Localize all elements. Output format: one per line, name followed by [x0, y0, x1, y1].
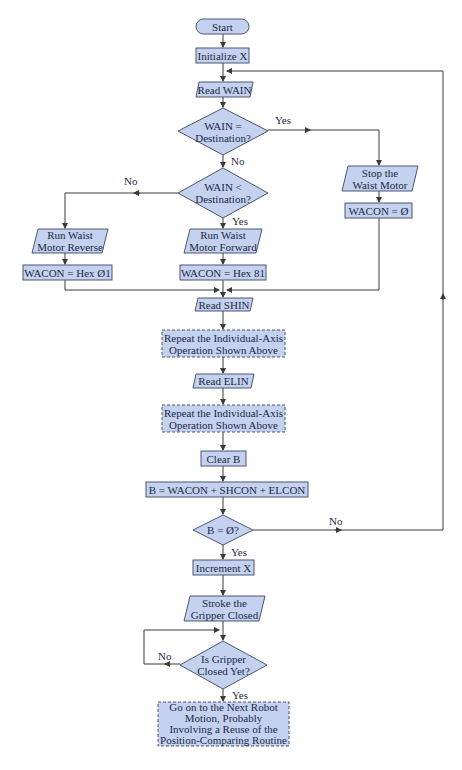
start-label: Start [196, 19, 249, 34]
init-x-label: Initialize X [196, 48, 249, 63]
inc-x-label: Increment X [193, 560, 254, 575]
clear-b-label: Clear B [201, 451, 246, 466]
edge-wain-lt-no [65, 193, 178, 228]
edge-merge-left [65, 280, 219, 290]
read-elin-label: Read ELIN [193, 374, 254, 388]
read-wain-label: Read WAIN [196, 82, 253, 97]
repeat-2-label: Repeat the Individual-Axis Operation Sho… [162, 405, 285, 432]
b-zero-no-label: No [329, 515, 342, 527]
run-reverse-label: Run Waist Motor Reverse [32, 229, 108, 253]
wain-eq-no-label: No [231, 155, 244, 167]
wacon-01-label: WACON = Hex Ø1 [23, 265, 112, 280]
stroke-gripper-label: Stroke the Gripper Closed [184, 596, 265, 621]
gripper-closed-label: Is Gripper Closed Yet? [180, 641, 267, 689]
wain-lt-no-label: No [124, 175, 137, 187]
repeat-1-label: Repeat the Individual-Axis Operation Sho… [162, 330, 285, 357]
next-motion-label: Go on to the Next Robot Motion, Probably… [158, 702, 289, 746]
wain-eq-yes-label: Yes [275, 114, 291, 126]
edge-wain-eq-yes [268, 130, 379, 165]
wain-eq-label: WAIN = Destination? [178, 108, 268, 155]
stop-waist-label: Stop the Waist Motor [342, 166, 418, 191]
b-zero-yes-label: Yes [231, 546, 247, 558]
read-shin-label: Read SHIN [195, 298, 253, 311]
gripper-yes-label: Yes [232, 689, 248, 701]
wacon-81-label: WACON = Hex 81 [180, 265, 266, 280]
gripper-no-label: No [158, 650, 171, 662]
wain-lt-label: WAIN < Destination? [178, 168, 268, 218]
b-sum-label: B = WACON + SHCON + ELCON [146, 482, 308, 497]
b-zero-label: B = Ø? [193, 515, 253, 545]
run-forward-label: Run Waist Motor Forward [184, 229, 262, 253]
wacon-zero-label: WACON = Ø [345, 203, 412, 218]
wain-lt-yes-label: Yes [232, 215, 248, 227]
